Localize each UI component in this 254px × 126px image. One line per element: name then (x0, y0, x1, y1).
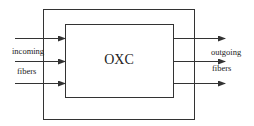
outgoing-fibers-label: fibers (212, 63, 231, 73)
oxc-label: OXC (104, 52, 134, 67)
incoming-fibers-label: fibers (17, 66, 36, 76)
outgoing-arrows (174, 39, 225, 84)
oxc-diagram: OXC incoming fibers outgoing fibers (0, 0, 254, 126)
outgoing-label: outgoing (211, 47, 242, 57)
incoming-label: incoming (12, 46, 45, 56)
